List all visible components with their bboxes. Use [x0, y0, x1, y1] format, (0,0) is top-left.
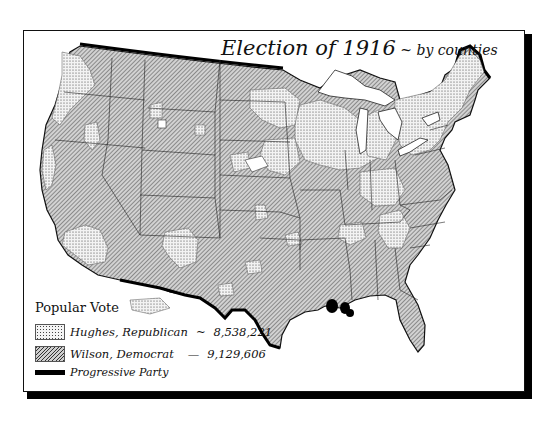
- legend-votes: 9,129,606: [207, 347, 266, 361]
- map-title: Election of 1916 ~ by counties: [221, 36, 498, 60]
- title-main: Election of 1916: [221, 36, 396, 60]
- legend-separator: —: [188, 347, 200, 361]
- legend-votes: 8,538,221: [214, 325, 273, 339]
- unreported-county: [158, 120, 166, 128]
- legend-label: Hughes, Republican: [70, 325, 188, 339]
- legend-item-republican: Hughes, Republican ~ 8,538,221: [35, 321, 272, 343]
- legend-label: Progressive Party: [70, 366, 168, 379]
- legend-heading: Popular Vote: [35, 300, 272, 315]
- legend-item-progressive: Progressive Party: [35, 365, 272, 379]
- title-separator: ~: [396, 42, 417, 58]
- legend-label: Wilson, Democrat: [70, 347, 174, 361]
- legend: Popular Vote Hughes, Republican ~ 8,538,…: [35, 300, 272, 379]
- democrat-swatch-icon: [35, 346, 65, 362]
- republican-swatch-icon: [35, 324, 65, 340]
- legend-separator: ~: [196, 325, 206, 339]
- legend-item-democrat: Wilson, Democrat — 9,129,606: [35, 343, 272, 365]
- title-sub: by counties: [416, 42, 497, 58]
- progressive-swatch-icon: [35, 370, 65, 375]
